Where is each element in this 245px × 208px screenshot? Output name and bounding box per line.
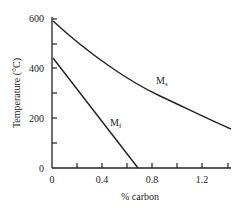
x-axis-title: % carbon xyxy=(121,191,159,202)
y-tick-label: 200 xyxy=(29,113,44,124)
chart: 600 400 200 0 0 0.4 0.8 1.2 % carbon Tem… xyxy=(0,0,245,208)
y-axis-title: Temperature (°C) xyxy=(11,58,23,128)
x-tick-label: 1.2 xyxy=(196,174,209,185)
y-ticks xyxy=(52,19,57,143)
x-tick-label: 0.4 xyxy=(96,174,109,185)
ms-label: Ms xyxy=(156,75,168,88)
y-tick-label: 0 xyxy=(39,163,44,174)
x-ticks xyxy=(77,163,228,168)
y-tick-label: 600 xyxy=(29,13,44,24)
x-tick-label: 0.8 xyxy=(146,174,159,185)
mf-label: Mf xyxy=(110,117,122,130)
ms-curve xyxy=(53,21,231,129)
mf-line xyxy=(53,58,138,168)
y-tick-label: 400 xyxy=(29,63,44,74)
x-tick-label: 0 xyxy=(50,174,55,185)
